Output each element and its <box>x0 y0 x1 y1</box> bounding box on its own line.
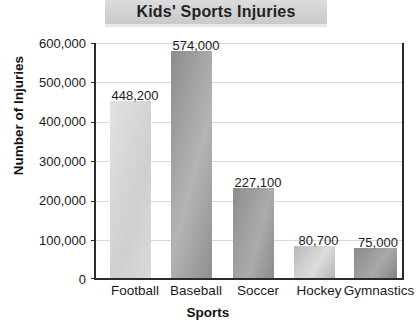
y-tick-label-600000: 600,000 <box>39 37 86 50</box>
gridline-600000 <box>96 43 402 44</box>
y-tick-200000 <box>91 201 96 202</box>
y-tick-300000 <box>91 161 96 162</box>
y-axis-title: Number of Injuries <box>11 56 26 176</box>
gridline-500000 <box>96 82 402 83</box>
bar-football[interactable] <box>110 101 151 278</box>
y-tick-label-0: 0 <box>79 273 86 286</box>
bar-value-gymnastics: 75,000 <box>342 236 414 249</box>
y-tick-label-500000: 500,000 <box>39 76 86 89</box>
y-tick-label-200000: 200,000 <box>39 194 86 207</box>
bar-value-soccer: 227,100 <box>219 176 297 189</box>
bar-hockey[interactable] <box>294 246 335 278</box>
y-tick-0 <box>91 278 96 279</box>
y-tick-400000 <box>91 122 96 123</box>
y-tick-label-400000: 400,000 <box>39 115 86 128</box>
chart-title: Kids' Sports Injuries <box>136 4 295 20</box>
bar-gymnastics[interactable] <box>354 248 397 278</box>
y-tick-label-100000: 100,000 <box>39 234 86 247</box>
x-axis-title: Sports <box>0 305 416 320</box>
y-tick-100000 <box>91 240 96 241</box>
chart-title-banner: Kids' Sports Injuries <box>105 0 327 24</box>
bar-soccer[interactable] <box>233 188 274 278</box>
bar-value-football: 448,200 <box>96 89 174 102</box>
y-tick-600000 <box>91 43 96 44</box>
y-tick-500000 <box>91 82 96 83</box>
y-tick-label-300000: 300,000 <box>39 155 86 168</box>
bar-value-baseball: 574,000 <box>157 39 235 52</box>
bar-baseball[interactable] <box>171 51 212 278</box>
x-tick-label-gymnastics: Gymnastics <box>337 284 416 298</box>
bar-chart-figure: Kids' Sports Injuries 600,000 500,000 40… <box>0 0 416 328</box>
